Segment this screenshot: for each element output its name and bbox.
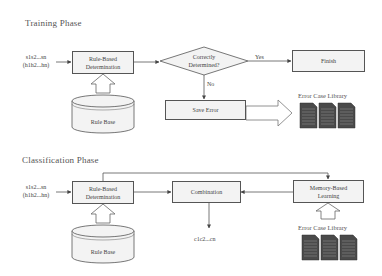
combination-box: Combination [172,181,241,203]
input-sequence: s1s2...sn [16,183,56,191]
input-hanja: (h1h2...hn) [16,61,56,69]
classification-input: s1s2...sn (h1h2...hn) [16,183,56,199]
rule-base-label: Rule Base [72,118,134,126]
training-input: s1s2...sn (h1h2...hn) [16,53,56,69]
yes-label: Yes [255,53,264,61]
right-arrow-icon [246,100,292,126]
rule-based-determination-box: Rule-Based Determination [72,181,134,204]
decision-line-1: Correctly [176,53,232,61]
up-arrow-icon [91,204,115,223]
input-sequence: s1s2...sn [16,53,56,61]
error-case-library-label: Error Case Library [298,224,347,231]
error-case-library-label: Error Case Library [298,92,347,99]
finish-box: Finish [292,50,365,72]
input-hanja: (h1h2...hn) [16,191,56,199]
rule-based-label: Rule-Based [89,55,117,63]
no-label: No [207,80,214,88]
database-icon [72,95,134,133]
up-arrow-icon [91,74,115,93]
determination-label: Determination [86,193,121,201]
save-error-box: Save Error [165,100,246,120]
connector-layer [0,0,382,276]
learning-label: Learning [318,192,340,200]
rule-base-label: Rule Base [72,248,134,256]
rule-based-determination-box: Rule-Based Determination [72,51,134,74]
memory-based-learning-box: Memory-Based Learning [293,180,364,203]
decision-line-2: Determined? [176,61,232,69]
decision-label: Correctly Determined? [176,53,232,69]
training-phase-title: Training Phase [25,18,82,28]
database-icon [72,225,134,263]
memory-based-label: Memory-Based [310,184,347,192]
up-arrow-icon [316,203,340,219]
output-sequence: c1c2...cn [194,235,216,243]
classification-phase-title: Classification Phase [22,155,99,165]
determination-label: Determination [86,63,121,71]
rule-based-label: Rule-Based [89,185,117,193]
